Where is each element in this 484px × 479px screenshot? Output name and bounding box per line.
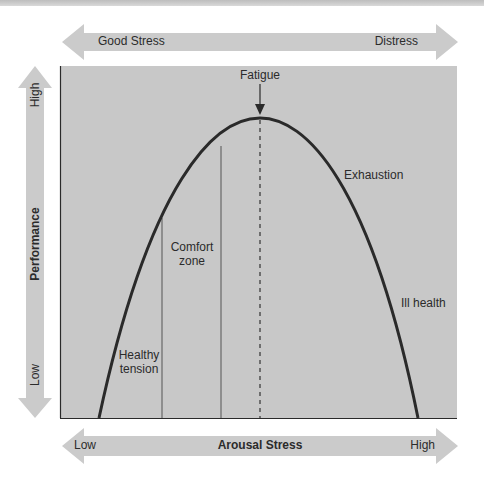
comfort-zone-line1: Comfort	[164, 240, 220, 254]
distress-label: Distress	[358, 34, 418, 48]
good-stress-label: Good Stress	[98, 34, 165, 48]
y-low-label: Low	[28, 355, 42, 395]
comfort-zone-label: Comfort zone	[164, 240, 220, 268]
x-axis-title: Arousal Stress	[200, 438, 320, 452]
x-low-label: Low	[74, 438, 96, 452]
exhaustion-label: Exhaustion	[344, 168, 403, 182]
comfort-zone-line2: zone	[164, 254, 220, 268]
y-axis-title: Performance	[28, 204, 42, 284]
y-high-label: High	[28, 75, 42, 115]
ill-health-label: Ill health	[401, 296, 446, 310]
fatigue-label: Fatigue	[236, 68, 284, 82]
x-high-label: High	[395, 438, 435, 452]
healthy-tension-label: Healthy tension	[114, 348, 164, 376]
healthy-tension-line1: Healthy	[114, 348, 164, 362]
healthy-tension-line2: tension	[114, 362, 164, 376]
